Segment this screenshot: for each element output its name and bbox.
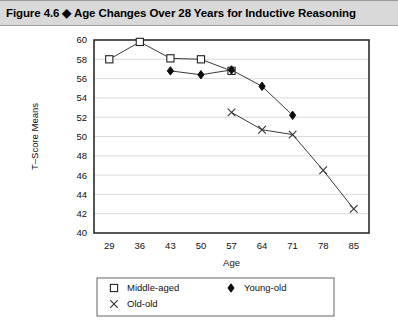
data-point-marker: [228, 109, 236, 117]
series-old-old: [228, 109, 358, 213]
x-tick-label: 43: [165, 240, 176, 251]
y-tick-label: 40: [76, 227, 87, 238]
gridlines-group: [94, 59, 369, 213]
y-tick-label: 48: [76, 150, 87, 161]
data-point-marker: [350, 205, 358, 213]
chart-canvas: 4042444648505254565860 29364350576471788…: [0, 26, 398, 326]
x-tick-label: 64: [257, 240, 268, 251]
y-tick-label: 46: [76, 170, 87, 181]
x-tick-label: 71: [287, 240, 298, 251]
y-tick-label: 50: [76, 131, 87, 142]
x-tick-label: 29: [104, 240, 115, 251]
data-series-group: [106, 38, 358, 212]
y-tick-label: 54: [76, 92, 87, 103]
figure-title-bar: Figure 4.6 ◆ Age Changes Over 28 Years f…: [0, 0, 398, 26]
x-axis-tick-labels: 293643505764717885: [104, 240, 359, 251]
series-young-old: [167, 66, 295, 120]
y-tick-label: 60: [76, 34, 87, 45]
x-tick-label: 57: [226, 240, 237, 251]
y-axis-title: T–Score Means: [29, 103, 40, 170]
legend-marker-icon: [110, 284, 117, 291]
series-line: [170, 70, 292, 115]
figure-container: Figure 4.6 ◆ Age Changes Over 28 Years f…: [0, 0, 398, 326]
inductive-reasoning-line-chart: 4042444648505254565860 29364350576471788…: [0, 26, 398, 326]
page-title: Figure 4.6 ◆ Age Changes Over 28 Years f…: [0, 6, 356, 20]
y-tick-label: 44: [76, 189, 87, 200]
x-tick-label: 78: [318, 240, 329, 251]
data-point-marker: [167, 67, 173, 75]
x-axis-title: Age: [223, 257, 240, 268]
data-point-marker: [106, 56, 113, 63]
y-axis-tick-labels: 4042444648505254565860: [76, 34, 87, 238]
x-tick-label: 36: [135, 240, 146, 251]
data-point-marker: [197, 56, 204, 63]
data-point-marker: [259, 82, 265, 90]
y-tick-label: 58: [76, 54, 87, 65]
data-point-marker: [319, 166, 327, 174]
y-tick-label: 42: [76, 208, 87, 219]
data-point-marker: [290, 111, 296, 119]
y-tick-label: 52: [76, 112, 87, 123]
chart-legend: Middle-agedYoung-oldOld-old: [97, 278, 334, 316]
x-tick-label: 85: [348, 240, 359, 251]
legend-label: Young-old: [244, 282, 286, 293]
legend-label: Middle-aged: [127, 282, 179, 293]
data-point-marker: [198, 71, 204, 79]
data-point-marker: [136, 38, 143, 45]
y-tick-label: 56: [76, 73, 87, 84]
x-tick-label: 50: [196, 240, 207, 251]
data-point-marker: [167, 55, 174, 62]
legend-label: Old-old: [127, 298, 158, 309]
